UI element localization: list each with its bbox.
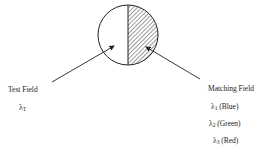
matching-field-wavelength-2: λ2 (Green) (209, 120, 241, 129)
matching-field-arrow (146, 47, 200, 79)
matching-field-label: Matching Field (208, 85, 254, 93)
color-name: (Blue) (219, 102, 238, 111)
test-field-wavelength: λT (19, 104, 26, 113)
lambda-subscript: 1 (215, 105, 218, 111)
matching-field-wavelength-3: λ3 (Red) (213, 137, 238, 146)
lambda-subscript: 2 (213, 122, 216, 128)
lambda-subscript: T (23, 106, 26, 112)
matching-field-wavelength-1: λ1 (Blue) (211, 103, 238, 112)
lambda-subscript: 3 (217, 139, 220, 145)
color-name: (Red) (221, 136, 238, 145)
test-field-arrow (52, 46, 114, 82)
test-field-label: Test Field (8, 86, 38, 94)
color-name: (Green) (217, 119, 240, 128)
